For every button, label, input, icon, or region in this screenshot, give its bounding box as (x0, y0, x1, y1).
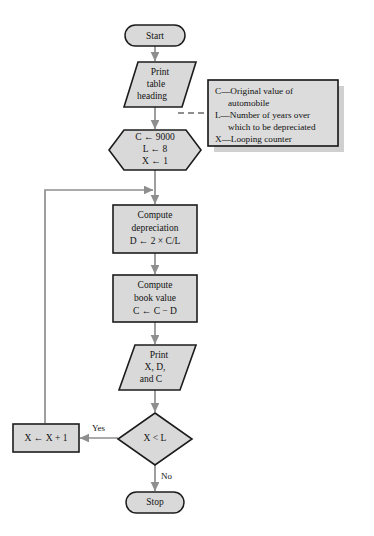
legend-line: X—Looping counter (215, 134, 292, 144)
decision-label: X < L (144, 433, 167, 443)
node-initialize[interactable]: C ← 9000 L ← 8 X ← 1 (109, 130, 201, 170)
initialize-line: X ← 1 (142, 156, 168, 166)
print-heading-line: Print (151, 67, 170, 77)
compute-depreciation-line: Compute (138, 210, 173, 220)
print-values-line: Print (150, 350, 169, 360)
print-heading-line: heading (137, 91, 167, 101)
initialize-line: L ← 8 (143, 144, 168, 154)
node-decision[interactable]: X < L (118, 413, 192, 465)
node-start[interactable]: Start (125, 25, 185, 46)
print-heading-line: table (147, 79, 165, 89)
compute-depreciation-line: D ← 2 × C/L (130, 236, 181, 246)
node-compute-book-value[interactable]: Compute book value C ← C − D (113, 275, 197, 322)
edge-label-no: No (161, 471, 172, 481)
initialize-line: C ← 9000 (135, 132, 175, 142)
legend-line: which to be depreciated (228, 122, 316, 132)
flowchart-canvas: C—Original value of automobile L—Number … (0, 0, 374, 536)
edge-label-yes: Yes (92, 423, 106, 433)
legend-line: L—Number of years over (215, 110, 310, 120)
print-values-line: X, D, (145, 362, 166, 372)
legend-line: C—Original value of (215, 86, 294, 96)
compute-book-value-line: book value (134, 293, 176, 303)
node-print-values[interactable]: Print X, D, and C (119, 345, 196, 390)
compute-book-value-line: Compute (138, 280, 173, 290)
start-label: Start (146, 31, 164, 41)
node-print-heading[interactable]: Print table heading (124, 62, 196, 107)
print-values-line: and C (140, 374, 162, 384)
node-increment[interactable]: X ← X + 1 (13, 424, 79, 452)
compute-book-value-line: C ← C − D (133, 306, 177, 316)
increment-label: X ← X + 1 (25, 433, 68, 443)
legend-panel: C—Original value of automobile L—Number … (208, 80, 344, 152)
node-stop[interactable]: Stop (126, 492, 184, 513)
compute-depreciation-line: depreciation (132, 223, 179, 233)
node-compute-depreciation[interactable]: Compute depreciation D ← 2 × C/L (113, 205, 197, 253)
stop-label: Stop (146, 497, 164, 507)
legend-line: automobile (228, 98, 269, 108)
